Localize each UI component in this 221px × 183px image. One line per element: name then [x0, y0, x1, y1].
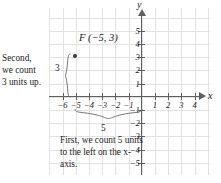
y-tick-label: 4 [129, 40, 140, 49]
horizontal-brace-value: 5 [101, 124, 106, 133]
annotation-second-line-3: 3 units up. [2, 76, 58, 88]
gridline-horizontal [49, 18, 210, 19]
y-tick-label: 3 [129, 53, 140, 62]
x-tick-label: −6 [58, 101, 68, 110]
x-tick [195, 93, 196, 100]
y-tick-label: −2 [129, 119, 140, 128]
x-tick-label: 2 [166, 101, 170, 110]
horizontal-brace-icon [74, 108, 144, 120]
vertical-brace-icon [62, 53, 72, 98]
annotation-first: First, we count 5 units to the left on t… [60, 134, 146, 171]
x-tick [155, 93, 156, 100]
annotation-first-text: First, we count 5 units to the left on t… [60, 135, 143, 169]
x-tick-label: 3 [179, 101, 183, 110]
x-axis-label: x [208, 91, 212, 101]
x-tick [76, 93, 77, 100]
x-axis-arrow-icon [199, 92, 206, 100]
y-tick-label: 2 [129, 66, 140, 75]
x-tick [129, 93, 130, 100]
x-tick [168, 93, 169, 100]
x-tick [89, 93, 90, 100]
annotation-second-line-1: Second, [2, 52, 58, 64]
x-tick [115, 93, 116, 100]
y-axis-arrow-icon [138, 9, 146, 16]
annotation-second: Second, we count 3 units up. [2, 52, 58, 89]
y-tick-label: 5 [129, 26, 140, 35]
x-tick [102, 93, 103, 100]
annotation-second-line-2: we count [2, 64, 58, 76]
y-tick-label: 1 [129, 79, 140, 88]
y-axis-label: y [137, 0, 141, 10]
x-tick [181, 93, 182, 100]
point-f-label: F (−5, 3) [79, 33, 118, 44]
figure-canvas: x y −6−5−4−3−2−1123454321−1−2−3−4−5 F (−… [0, 0, 221, 183]
plotted-point-f [73, 54, 77, 58]
x-tick-label: 4 [192, 101, 196, 110]
x-tick-label: 1 [153, 101, 157, 110]
